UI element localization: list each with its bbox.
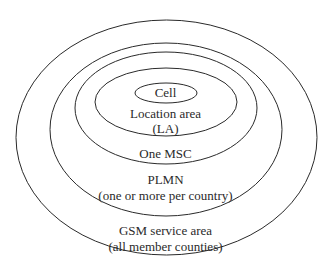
label-location-area: Location area: [0, 106, 331, 121]
label-plmn-note: (one or more per country): [0, 188, 331, 203]
label-plmn: PLMN: [0, 172, 331, 187]
label-gsm-service-area: GSM service area: [0, 223, 331, 238]
label-msc: One MSC: [0, 146, 331, 161]
label-location-area-abbr: (LA): [0, 121, 331, 136]
ellipse-gsm-service-area: [16, 20, 317, 255]
label-cell: Cell: [0, 85, 331, 100]
label-gsm-service-area-note: (all member counties): [0, 239, 331, 254]
